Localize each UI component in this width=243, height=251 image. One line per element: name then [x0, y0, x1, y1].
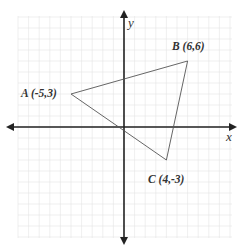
y-axis-up-arrow-icon — [120, 10, 128, 18]
coordinate-plane: y x A (-5,3) B (6,6) C (4,-3) — [0, 0, 243, 251]
x-axis-left-arrow-icon — [6, 123, 14, 131]
y-axis-down-arrow-icon — [120, 237, 128, 245]
y-axis-label: y — [126, 15, 134, 30]
vertex-c-label: C (4,-3) — [148, 173, 185, 186]
vertex-a-label: A (-5,3) — [20, 87, 57, 100]
x-axis-label: x — [225, 129, 232, 144]
triangle-abc — [71, 61, 188, 160]
vertex-b-label: B (6,6) — [171, 40, 205, 53]
